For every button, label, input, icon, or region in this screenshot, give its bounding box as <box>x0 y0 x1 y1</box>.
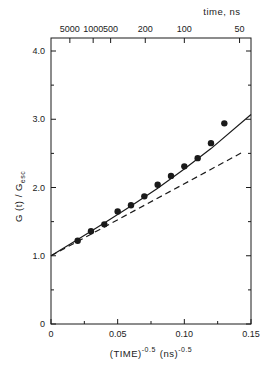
x-tick-label: 0 <box>48 329 53 339</box>
chart: 00.050.100.1501.02.03.04.050001000500200… <box>0 0 271 370</box>
x-tick-label: 0.05 <box>109 329 127 339</box>
data-point <box>101 221 107 227</box>
data-points <box>74 120 227 244</box>
plot-border <box>51 38 251 324</box>
y-tick-label: 3.0 <box>32 114 45 124</box>
x-axis-title: (TIME)-0.5(ns)-0.5 <box>110 346 193 359</box>
data-point <box>208 140 214 146</box>
data-point <box>168 173 174 179</box>
data-point <box>74 238 80 244</box>
axis-ticks: 00.050.100.1501.02.03.04.050001000500200… <box>32 24 259 339</box>
x-tick-label: 0.10 <box>176 329 194 339</box>
plot-frame <box>51 38 251 324</box>
top-tick-label: 500 <box>103 24 118 34</box>
data-point <box>194 155 200 161</box>
fit-lines <box>51 115 251 256</box>
y-tick-label: 1.0 <box>32 251 45 261</box>
data-point <box>141 193 147 199</box>
top-tick-label: 200 <box>138 24 153 34</box>
y-axis-title-main: G (t) / G <box>13 183 24 222</box>
data-point <box>88 228 94 234</box>
data-point <box>128 202 134 208</box>
y-tick-label: 4.0 <box>32 46 45 56</box>
data-point <box>114 208 120 214</box>
top-tick-label: 5000 <box>60 24 80 34</box>
top-tick-label: 100 <box>177 24 192 34</box>
svg-text:G (t) / Gesc: G (t) / Gesc <box>13 171 26 222</box>
data-point <box>181 163 187 169</box>
y-tick-label: 0 <box>40 319 45 329</box>
y-axis-title-sub: esc <box>19 171 26 183</box>
y-tick-label: 2.0 <box>32 183 45 193</box>
top-tick-label: 50 <box>235 24 245 34</box>
x-tick-label: 0.15 <box>242 329 260 339</box>
fit-solid-line <box>51 115 251 256</box>
top-tick-label: 1000 <box>83 24 103 34</box>
top-axis-title: time, ns <box>203 6 240 17</box>
data-point <box>154 182 160 188</box>
y-axis-title: G (t) / Gesc <box>13 171 26 222</box>
data-point <box>221 120 227 126</box>
